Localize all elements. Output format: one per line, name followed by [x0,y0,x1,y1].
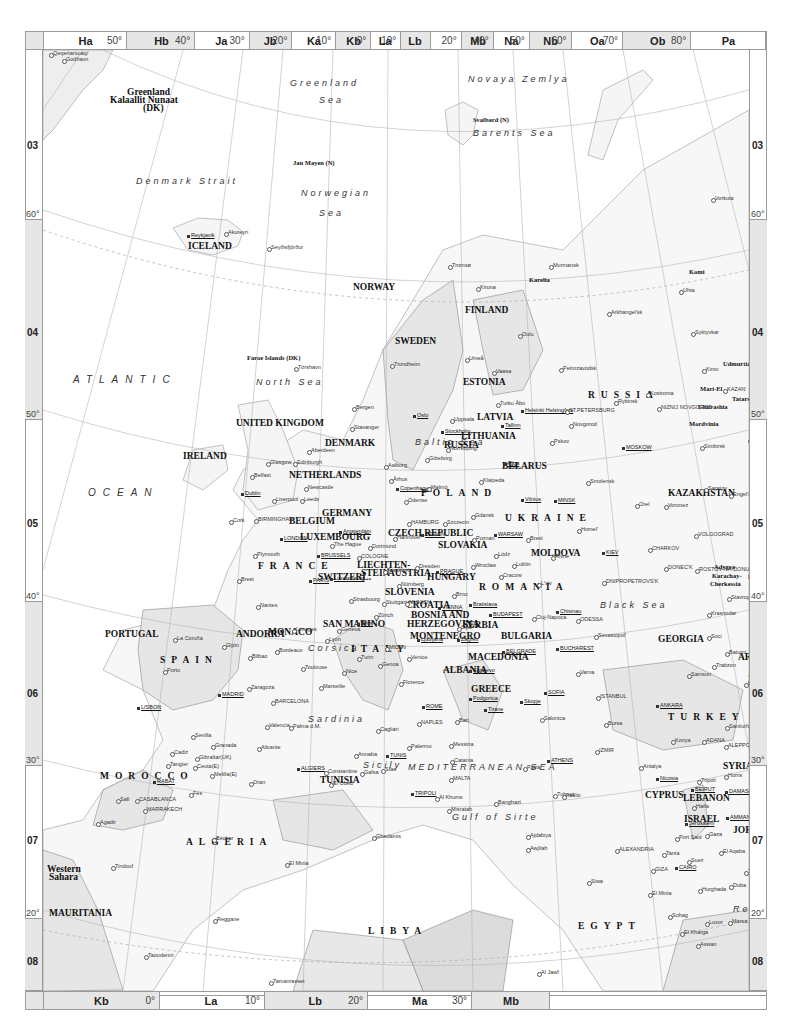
city-label[interactable]: COLOGNE [361,553,389,559]
city-label[interactable]: NAPLES [421,719,443,725]
city-label[interactable]: Newcastle [308,484,333,490]
city-label[interactable]: Fès [193,790,202,796]
city-label[interactable]: Bilbao [252,653,267,659]
city-label[interactable]: Al Jawf [541,969,559,975]
city-label[interactable]: Homs [728,772,742,778]
city-label[interactable]: Ajdabiya [530,832,551,838]
city-label[interactable]: Norrköping [450,445,477,451]
city-label[interactable]: Marseille [323,683,345,689]
capital-city-label[interactable]: Bern [361,620,373,626]
city-label[interactable]: Palma d.M. [293,723,321,729]
city-label[interactable]: Cadiz [174,749,188,755]
city-label[interactable]: Poznan [476,535,495,541]
city-label[interactable]: Bari [459,717,469,723]
capital-city-label[interactable]: TUNIS [390,752,407,758]
capital-city-label[interactable]: LONDON [284,535,308,541]
city-label[interactable]: Annaba [358,751,377,757]
city-label[interactable]: Stavropol' [731,594,749,600]
city-label[interactable]: Uppsala [454,416,474,422]
city-label[interactable]: Antalya [643,763,661,769]
city-label[interactable]: Bergen [356,404,374,410]
city-label[interactable]: Nantes [260,602,277,608]
capital-city-label[interactable]: BRUSSELS [321,552,350,558]
city-label[interactable]: Kostroma [650,390,674,396]
city-label[interactable]: Melilla(E) [214,771,237,777]
city-label[interactable]: Århus [393,476,407,482]
city-label[interactable]: Trabzon [716,662,736,668]
city-label[interactable]: Bordeaux [279,647,303,653]
city-label[interactable]: Tórshavn [298,364,321,370]
city-label[interactable]: Smolensk [590,478,614,484]
city-label[interactable]: Edinburgh [297,459,322,465]
city-label[interactable]: The Hague [334,541,361,547]
city-label[interactable]: Sevilla [195,732,211,738]
capital-city-label[interactable]: LISBON [141,704,161,710]
city-label[interactable]: Novgorod [573,421,597,427]
city-label[interactable]: MALTA [453,775,471,781]
capital-city-label[interactable]: SOFIA [548,689,565,695]
city-label[interactable]: DNIPROPETROVS'K [606,578,658,584]
city-label[interactable]: Vorkuta [715,195,734,201]
city-label[interactable]: Aalborg [388,462,407,468]
city-label[interactable]: Dortmund [372,543,396,549]
city-label[interactable]: Homel' [581,526,598,532]
capital-city-label[interactable]: Chisinau [560,608,581,614]
city-label[interactable]: Reggane [217,916,239,922]
city-label[interactable]: Brno [456,591,468,597]
capital-city-label[interactable]: Dublin [245,490,261,496]
city-label[interactable]: Godhavn [66,56,88,62]
city-label[interactable]: Duba [733,882,746,888]
city-label[interactable]: Tamanrasset [273,978,305,984]
city-label[interactable]: Al Khums [439,794,463,800]
city-label[interactable]: Oulu [522,331,534,337]
city-label[interactable]: Györ [461,624,473,630]
city-label[interactable]: Rivne [555,553,569,559]
capital-city-label[interactable]: KIEV [606,549,619,555]
city-label[interactable]: Toulouse [305,664,327,670]
capital-city-label[interactable]: Vilnius [525,496,541,502]
city-label[interactable]: Krasnodar [711,610,736,616]
city-label[interactable]: Nice [346,668,357,674]
city-label[interactable]: ODESSA [580,616,603,622]
city-label[interactable]: Orel [639,501,649,507]
city-label[interactable]: Kiruna [480,284,496,290]
city-label[interactable]: Ghadamis [376,833,401,839]
city-label[interactable]: Aberdeen [311,447,335,453]
city-label[interactable]: Stavanger [354,424,379,430]
capital-city-label[interactable]: Ljubljana [421,636,443,642]
city-label[interactable]: Catania [454,757,473,763]
city-label[interactable]: Nürnberg [401,581,424,587]
city-label[interactable]: Sohag [672,912,688,918]
capital-city-label[interactable]: VIENNA [442,604,462,610]
city-label[interactable]: Strasbourg [353,596,380,602]
city-label[interactable]: Tangier [170,761,188,767]
city-label[interactable]: Alicante [261,744,281,750]
city-label[interactable]: Lyon [329,636,341,642]
city-label[interactable]: Engel's [733,491,749,497]
city-label[interactable]: MILAN [389,644,406,650]
city-label[interactable]: Gafsa [364,769,379,775]
city-label[interactable]: Stuttgart [386,599,407,605]
city-label[interactable]: Voronez [668,502,688,508]
city-label[interactable]: Banghazi [498,799,521,805]
city-label[interactable]: Vaasa [496,368,511,374]
city-label[interactable]: CASABLANCA [139,796,176,802]
city-label[interactable]: Porto [167,667,180,673]
city-label[interactable]: HAMBURG [411,519,439,525]
city-label[interactable]: VOLGOGRAD [698,531,733,537]
city-label[interactable]: Syktyvkar [695,329,719,335]
city-label[interactable]: Göteborg [429,455,452,461]
city-label[interactable]: Akureyri [228,229,248,235]
capital-city-label[interactable]: MADRID [222,691,244,697]
city-label[interactable]: Cluj-Napoca [536,614,566,620]
city-label[interactable]: El Oued [333,780,353,786]
city-label[interactable]: CHARKOV [652,545,679,551]
city-label[interactable]: El Minia [652,890,672,896]
city-label[interactable]: Plymouth [257,551,280,557]
capital-city-label[interactable]: BUDAPEST [493,611,523,617]
city-label[interactable]: Messina [453,741,473,747]
capital-city-label[interactable]: Bratislava [473,601,497,607]
city-label[interactable]: Soci [711,633,722,639]
city-label[interactable]: ADANA [706,737,725,743]
city-label[interactable]: L'viv [541,580,552,586]
